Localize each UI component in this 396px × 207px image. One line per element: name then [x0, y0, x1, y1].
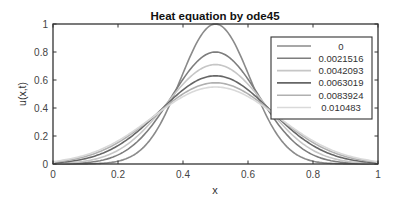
- y-axis-label: u(x,t): [16, 82, 28, 106]
- legend-label: 0.010483: [321, 102, 361, 113]
- x-tick-label: 0.2: [111, 169, 125, 180]
- legend-label: 0.0021516: [319, 53, 364, 64]
- heat-equation-chart: Heat equation by ode45 00.20.40.60.81 00…: [0, 0, 396, 207]
- chart-title: Heat equation by ode45: [150, 10, 280, 22]
- x-tick-label: 0.8: [306, 169, 320, 180]
- x-tick-label: 0.6: [241, 169, 255, 180]
- legend-label: 0.0063019: [319, 77, 364, 88]
- legend: 00.00215160.00420930.00630190.00839240.0…: [271, 37, 372, 119]
- x-tick-label: 1: [375, 169, 381, 180]
- x-tick-labels: 00.20.40.60.81: [50, 169, 381, 180]
- legend-label: 0.0042093: [319, 65, 364, 76]
- x-tick-label: 0.4: [176, 169, 190, 180]
- y-tick-label: 0.2: [34, 131, 48, 142]
- y-tick-label: 0.6: [34, 75, 48, 86]
- x-tick-label: 0: [50, 169, 56, 180]
- legend-label: 0: [338, 41, 343, 52]
- legend-label: 0.0083924: [319, 90, 364, 101]
- y-tick-label: 0.4: [34, 103, 48, 114]
- x-axis-label: x: [212, 184, 218, 196]
- y-tick-label: 0.8: [34, 47, 48, 58]
- y-tick-label: 1: [42, 19, 48, 30]
- y-tick-label: 0: [42, 159, 48, 170]
- y-tick-labels: 00.20.40.60.81: [34, 19, 48, 170]
